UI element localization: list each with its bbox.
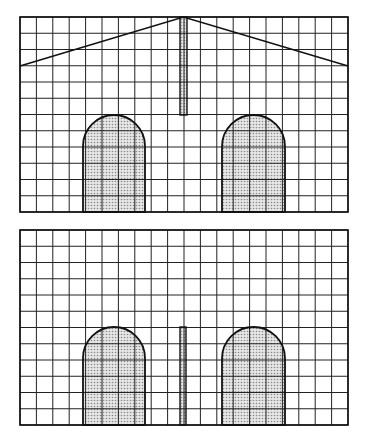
top-elevation xyxy=(20,17,348,212)
bottom-elevation xyxy=(20,230,348,425)
elevation-drawing xyxy=(0,0,371,438)
